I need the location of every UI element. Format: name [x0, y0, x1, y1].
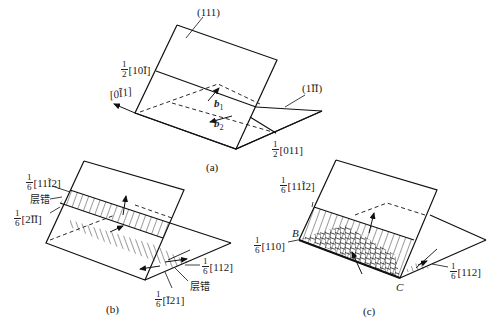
diagram-canvas: [0, 0, 502, 324]
partial-label-112-c: 16 [112]: [450, 262, 481, 281]
plane-1-1-1-label: (1ĪĪ): [302, 83, 322, 94]
stacking-fault-label-left: 层错: [30, 195, 50, 205]
plane-111: [135, 25, 277, 149]
vector-label-half-011: 12 [011]: [272, 140, 303, 159]
plane-111-label: (111): [197, 7, 220, 18]
point-c-label: C: [396, 282, 403, 293]
caption-b: (b): [106, 303, 119, 315]
caption-a: (a): [206, 161, 218, 173]
burgers-b1-label: b1: [214, 98, 224, 112]
vector-label-half-10-1: 12 [10Ī]: [121, 60, 151, 79]
figure-c: [288, 160, 486, 278]
partial-label-11-2-c: 16 [11Ĩ2]: [280, 176, 315, 195]
dislocation-label-110: 16 [110]: [254, 236, 285, 255]
partial-label-121: 16 [Ī21]: [155, 290, 185, 309]
partial-label-2-1-1: 16 [2ĪĪ]: [14, 209, 42, 228]
partial-label-112-b: 16 [112]: [202, 257, 233, 276]
stacking-fault-label-right: 层错: [190, 282, 210, 292]
burgers-b2-label: b2: [214, 118, 224, 132]
caption-c: (c): [363, 305, 375, 317]
partial-label-11-2: 16 [11Ĩ2]: [26, 173, 61, 192]
point-b-label: B: [292, 228, 299, 239]
